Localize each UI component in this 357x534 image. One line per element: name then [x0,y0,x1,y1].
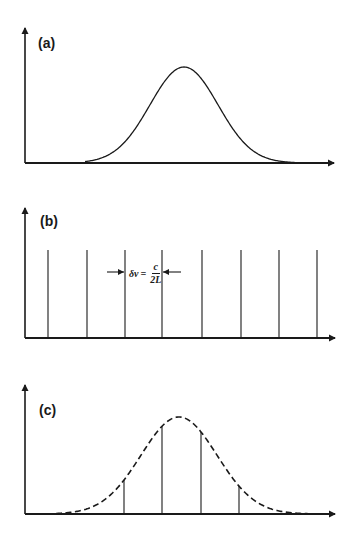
fraction-denominator: 2L [150,274,161,285]
fraction: c 2L [150,262,161,285]
panel-b-label: (b) [40,214,58,228]
fraction-numerator: c [152,262,160,274]
panel-a-label: (a) [38,36,55,50]
panel-a [25,28,334,163]
panel-c-label: (c) [39,403,56,417]
mode-spacing-formula: δν = c 2L [129,262,161,285]
delta-nu-symbol: δν [129,269,139,279]
gain-curve [85,67,298,163]
gain-envelope-dashed [56,417,310,514]
laser-modes-figure [0,0,357,534]
panel-c [25,385,335,514]
panel-b [25,208,335,338]
equals-sign: = [141,269,147,279]
